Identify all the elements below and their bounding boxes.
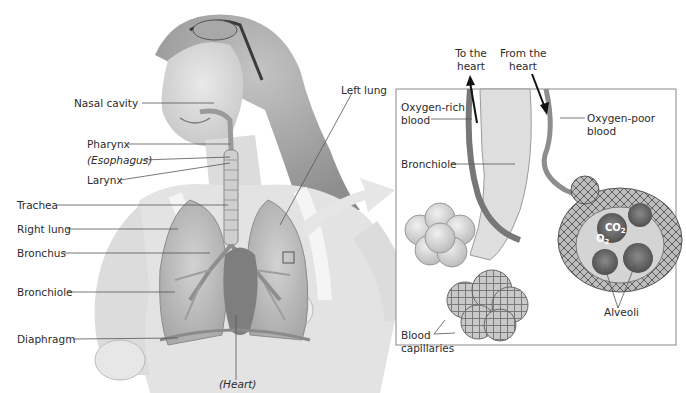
label-esophagus: (Esophagus): [87, 154, 152, 167]
o2-base: O: [596, 233, 605, 244]
label-to-the-heart: To the heart: [451, 47, 491, 72]
label-oxygen-rich-blood: Oxygen-rich blood: [401, 101, 465, 126]
label-left-lung: Left lung: [341, 84, 387, 97]
capillaries-line1: Blood: [401, 329, 454, 342]
oxygen-poor-line2: blood: [587, 125, 655, 138]
label-o2: O2: [596, 233, 609, 249]
co2-subscript: 2: [621, 227, 626, 235]
label-bronchiole: Bronchiole: [17, 286, 73, 299]
label-diaphragm: Diaphragm: [17, 333, 75, 346]
label-inset-bronchiole: Bronchiole: [401, 158, 457, 171]
label-blood-capillaries: Blood capillaries: [401, 329, 454, 354]
respiratory-diagram: Nasal cavity Pharynx (Esophagus) Larynx …: [0, 0, 686, 393]
co2-base: CO: [605, 222, 621, 233]
illustration-art: [0, 0, 686, 393]
label-heart: (Heart): [219, 378, 256, 391]
oxygen-rich-line2: blood: [401, 114, 465, 127]
label-right-lung: Right lung: [17, 223, 71, 236]
from-heart-line2: heart: [500, 60, 546, 73]
label-trachea: Trachea: [17, 199, 58, 212]
label-larynx: Larynx: [87, 174, 123, 187]
label-oxygen-poor-blood: Oxygen-poor blood: [587, 112, 655, 137]
label-from-the-heart: From the heart: [500, 47, 546, 72]
label-nasal-cavity: Nasal cavity: [74, 97, 138, 110]
label-bronchus: Bronchus: [17, 247, 66, 260]
o2-subscript: 2: [605, 238, 610, 246]
oxygen-poor-line1: Oxygen-poor: [587, 112, 655, 125]
to-heart-line1: To the: [451, 47, 491, 60]
from-heart-line1: From the: [500, 47, 546, 60]
label-pharynx: Pharynx: [87, 138, 130, 151]
capillaries-line2: capillaries: [401, 342, 454, 355]
to-heart-line2: heart: [451, 60, 491, 73]
label-alveoli: Alveoli: [604, 306, 639, 319]
oxygen-rich-line1: Oxygen-rich: [401, 101, 465, 114]
